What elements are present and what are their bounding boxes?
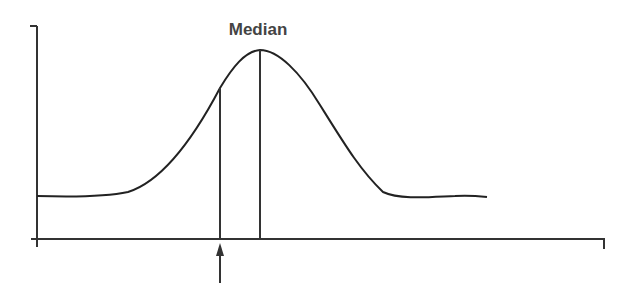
distribution-diagram: Median: [0, 0, 627, 285]
arrow-up-icon: [216, 243, 224, 283]
x-axis: [31, 239, 605, 249]
median-label: Median: [229, 20, 288, 40]
distribution-curve: [37, 50, 487, 197]
y-axis: [30, 26, 37, 247]
